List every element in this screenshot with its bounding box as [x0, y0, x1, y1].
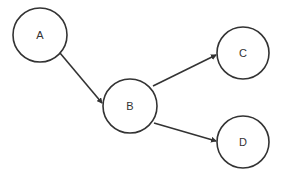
node-label: B	[126, 100, 133, 112]
arrow-line	[153, 55, 216, 86]
node-a: A	[13, 8, 67, 62]
edge-b-to-c	[153, 55, 216, 86]
arrow-line	[154, 123, 216, 141]
node-b: B	[103, 79, 157, 133]
arrow-line	[60, 53, 102, 103]
edge-a-to-b	[60, 53, 102, 103]
node-c: C	[217, 27, 269, 79]
node-label: A	[36, 29, 44, 41]
graph-diagram: ABCD	[0, 0, 284, 177]
nodes-group: ABCD	[13, 8, 269, 168]
edge-b-to-d	[154, 123, 216, 141]
node-label: D	[239, 136, 247, 148]
node-label: C	[239, 47, 247, 59]
node-d: D	[217, 116, 269, 168]
